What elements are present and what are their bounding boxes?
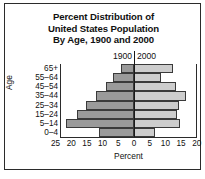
y-tick-65+: 65+ bbox=[18, 64, 58, 73]
bar-1900-55–64 bbox=[113, 73, 134, 82]
bar-2000-55–64 bbox=[134, 73, 161, 82]
chart-title-line-3: By Age, 1900 and 2000 bbox=[5, 34, 202, 46]
bar-row bbox=[60, 73, 197, 82]
bar-1900-35–44 bbox=[96, 91, 134, 100]
y-axis-tick-labels: 65+55–6445–5435–4425–3415–245–140–4 bbox=[15, 64, 58, 137]
x-axis-tick-labels: 25201510505101520 bbox=[60, 139, 197, 150]
x-axis-line bbox=[60, 137, 197, 138]
legend-label-2000: 2000 bbox=[137, 51, 156, 61]
bar-1900-65+ bbox=[121, 64, 134, 73]
y-tick-25–34: 25–34 bbox=[18, 101, 58, 110]
chart-title-line-1: Percent Distribution of bbox=[5, 11, 202, 23]
bar-2000-65+ bbox=[134, 64, 173, 73]
y-axis-title: Age bbox=[4, 75, 14, 90]
y-tick-45–54: 45–54 bbox=[18, 82, 58, 91]
x-axis-title: Percent bbox=[60, 151, 197, 161]
y-tick-15–24: 15–24 bbox=[18, 110, 58, 119]
plot-area bbox=[60, 64, 197, 137]
legend-label-1900: 1900 bbox=[113, 51, 132, 61]
bar-2000-25–34 bbox=[134, 101, 179, 110]
zero-axis-line bbox=[134, 51, 135, 137]
chart-screenshot: Percent Distribution of United States Po… bbox=[0, 0, 205, 179]
chart-title: Percent Distribution of United States Po… bbox=[5, 11, 202, 46]
bar-row bbox=[60, 82, 197, 91]
bar-1900-5–14 bbox=[66, 119, 134, 128]
bar-2000-5–14 bbox=[134, 119, 180, 128]
bar-1900-0–4 bbox=[99, 128, 134, 137]
y-tick-35–44: 35–44 bbox=[18, 91, 58, 100]
x-tick-9: 20 bbox=[188, 139, 205, 148]
bar-row bbox=[60, 128, 197, 137]
bar-2000-45–54 bbox=[134, 82, 176, 91]
bar-2000-35–44 bbox=[134, 91, 186, 100]
bar-1900-25–34 bbox=[86, 101, 134, 110]
y-tick-55–64: 55–64 bbox=[18, 73, 58, 82]
bar-2000-15–24 bbox=[134, 110, 177, 119]
bar-row bbox=[60, 119, 197, 128]
bar-row bbox=[60, 64, 197, 73]
bar-1900-45–54 bbox=[106, 82, 134, 91]
bar-2000-0–4 bbox=[134, 128, 155, 137]
chart-title-line-2: United States Population bbox=[5, 23, 202, 35]
y-tick-5–14: 5–14 bbox=[18, 119, 58, 128]
legend: 1900 2000 bbox=[60, 51, 197, 63]
bar-1900-15–24 bbox=[77, 110, 134, 119]
bar-row bbox=[60, 91, 197, 100]
figure-frame: Percent Distribution of United States Po… bbox=[4, 3, 201, 170]
bar-row bbox=[60, 101, 197, 110]
bar-row bbox=[60, 110, 197, 119]
y-tick-0–4: 0–4 bbox=[18, 128, 58, 137]
